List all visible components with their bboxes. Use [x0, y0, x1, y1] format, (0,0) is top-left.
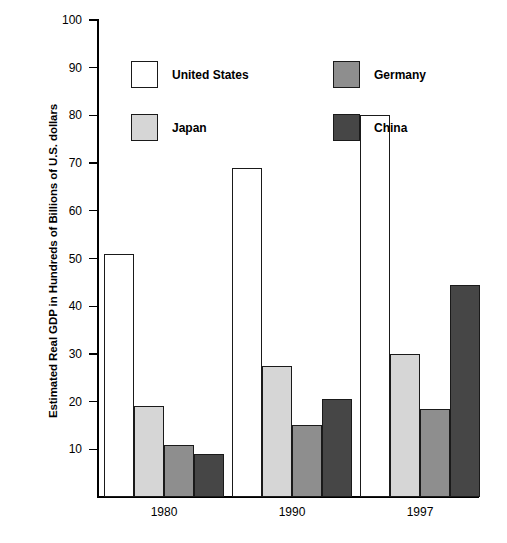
y-tick-label-text: 60: [22, 204, 82, 218]
legend-label: Germany: [374, 68, 426, 82]
y-tick-label-text: 30: [22, 347, 82, 361]
bar: [164, 445, 194, 497]
y-tick-mark: [89, 449, 97, 450]
legend-item-china: China: [333, 114, 407, 141]
x-axis-label-1997: 1997: [360, 505, 480, 519]
y-tick-label-text: 100: [22, 13, 82, 27]
y-tick-label: 40: [20, 299, 82, 313]
y-tick-label-text: 90: [22, 61, 82, 75]
y-tick-mark: [89, 19, 97, 20]
legend-item-germany: Germany: [333, 61, 426, 88]
bar: [262, 366, 292, 497]
y-tick-label: 90: [20, 61, 82, 75]
legend-item-united-states: United States: [131, 61, 249, 88]
bar: [134, 406, 164, 497]
y-tick-label: 70: [20, 156, 82, 170]
y-tick-label-text: 50: [22, 252, 82, 266]
y-tick-label: 30: [20, 347, 82, 361]
bar-group: [232, 20, 352, 497]
legend-label: Japan: [172, 121, 207, 135]
y-tick-label: 20: [20, 395, 82, 409]
x-axis-label-1990: 1990: [232, 505, 352, 519]
legend-swatch: [333, 114, 360, 141]
y-tick-label: 50: [20, 252, 82, 266]
plot-bars: [97, 20, 479, 497]
y-tick-label-text: 70: [22, 156, 82, 170]
y-tick-label: 60: [20, 204, 82, 218]
bar: [104, 254, 134, 497]
y-tick-mark: [89, 162, 97, 163]
y-tick-label-text: 40: [22, 299, 82, 313]
x-axis-label-1980: 1980: [104, 505, 224, 519]
legend-label: United States: [172, 68, 249, 82]
y-tick-label-text: 80: [22, 108, 82, 122]
y-tick-mark: [89, 115, 97, 116]
legend-swatch: [131, 61, 158, 88]
y-tick-label-text: 20: [22, 395, 82, 409]
bar: [292, 425, 322, 497]
y-tick-mark: [89, 67, 97, 68]
legend-swatch: [131, 114, 158, 141]
y-tick-label-text: 10: [22, 442, 82, 456]
y-tick-mark: [89, 306, 97, 307]
bar: [420, 409, 450, 497]
y-tick-label: 80: [20, 108, 82, 122]
bar: [232, 168, 262, 497]
bar: [450, 285, 480, 497]
legend-label: China: [374, 121, 407, 135]
legend-swatch: [333, 61, 360, 88]
bar: [194, 454, 224, 497]
bar: [390, 354, 420, 497]
y-tick-mark: [89, 401, 97, 402]
y-tick-label: 10: [20, 442, 82, 456]
bar-chart: Estimated Real GDP in Hundreds of Billio…: [0, 0, 507, 543]
y-tick-label: 100: [20, 13, 82, 27]
bar: [322, 399, 352, 497]
y-tick-mark: [89, 210, 97, 211]
legend-item-japan: Japan: [131, 114, 207, 141]
y-tick-mark: [89, 353, 97, 354]
y-tick-mark: [89, 258, 97, 259]
bar: [360, 115, 390, 497]
bar-group: [104, 20, 224, 497]
bar-group: [360, 20, 480, 497]
